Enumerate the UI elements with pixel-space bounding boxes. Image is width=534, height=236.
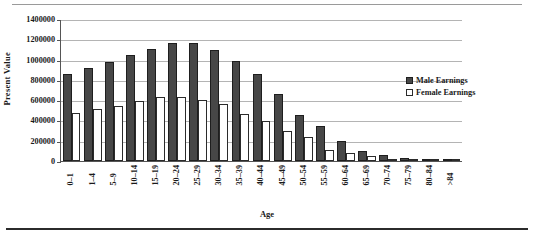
- bar-female: [240, 114, 249, 161]
- bar-male: [232, 61, 241, 161]
- y-tick-label: 800000: [30, 77, 55, 85]
- x-tick-cell: >84: [441, 165, 462, 185]
- x-tick-cell: 35–39: [230, 165, 251, 185]
- legend-swatch-icon: [406, 77, 413, 84]
- legend-swatch-icon: [406, 89, 413, 96]
- x-tick-label: 25–29: [194, 165, 202, 185]
- x-tick-label: 40–44: [257, 165, 265, 185]
- legend-label: Male Earnings: [416, 76, 468, 85]
- x-tick-cell: 5–9: [103, 165, 124, 185]
- bar-female: [156, 97, 165, 161]
- bar-group: [357, 20, 378, 161]
- x-tick-label: 65–69: [363, 165, 371, 185]
- y-tick-label: 1200000: [26, 36, 55, 44]
- bar-female: [388, 159, 397, 161]
- y-tick-label: 1400000: [26, 16, 55, 24]
- bar-female: [135, 101, 144, 161]
- bar-female: [219, 104, 228, 161]
- bar-female: [93, 109, 102, 161]
- bar-group: [209, 20, 230, 161]
- bar-group: [230, 20, 251, 161]
- bar-male: [168, 43, 177, 161]
- bar-female: [409, 159, 418, 161]
- x-tick-label: 75–79: [405, 165, 413, 185]
- bar-group: [167, 20, 188, 161]
- bar-female: [262, 121, 271, 161]
- bar-group: [378, 20, 399, 161]
- top-divider: [12, 4, 522, 5]
- figure-panel: Present Value 14000001200000100000080000…: [0, 0, 534, 236]
- bar-group: [272, 20, 293, 161]
- bar-male: [189, 43, 198, 161]
- x-tick-label: 45–49: [279, 165, 287, 185]
- x-axis-tick-labels: 0–11–45–910–1415–1920–2425–2930–3435–394…: [61, 165, 462, 185]
- chart-legend: Male EarningsFemale Earnings: [406, 76, 475, 100]
- bar-female: [283, 131, 292, 161]
- y-axis-title: Present Value: [2, 52, 18, 106]
- bar-group: [314, 20, 335, 161]
- x-tick-cell: 0–1: [61, 165, 82, 185]
- x-tick-cell: 55–59: [314, 165, 335, 185]
- bar-group: [251, 20, 272, 161]
- y-tick-label: 400000: [30, 117, 55, 125]
- x-tick-label: 80–84: [426, 165, 434, 185]
- x-tick-cell: 30–34: [209, 165, 230, 185]
- bar-female: [367, 156, 376, 161]
- bar-group: [103, 20, 124, 161]
- y-tick-mark: [57, 162, 61, 163]
- bar-male: [337, 141, 346, 161]
- bar-group: [124, 20, 145, 161]
- y-tick-label: 200000: [30, 138, 55, 146]
- bar-group: [145, 20, 166, 161]
- legend-label: Female Earnings: [416, 88, 475, 97]
- bar-female: [198, 100, 207, 161]
- x-tick-label: 50–54: [300, 165, 308, 185]
- x-tick-label: >84: [447, 165, 455, 185]
- bar-male: [379, 155, 388, 161]
- y-tick-label: 1000000: [26, 56, 55, 64]
- x-tick-cell: 1–4: [82, 165, 103, 185]
- x-tick-cell: 10–14: [124, 165, 145, 185]
- x-tick-cell: 20–24: [167, 165, 188, 185]
- x-tick-label: 70–74: [384, 165, 392, 185]
- bar-male: [210, 50, 219, 161]
- x-tick-label: 5–9: [110, 165, 118, 185]
- bar-male: [316, 126, 325, 161]
- x-tick-label: 55–59: [321, 165, 329, 185]
- bar-female: [177, 97, 186, 161]
- bar-male: [443, 159, 452, 161]
- y-tick-label: 0: [51, 158, 55, 166]
- x-tick-cell: 60–64: [335, 165, 356, 185]
- bar-male: [358, 151, 367, 161]
- x-tick-label: 60–64: [342, 165, 350, 185]
- legend-item-female-earnings: Female Earnings: [406, 88, 475, 97]
- bar-group: [61, 20, 82, 161]
- bar-female: [430, 159, 439, 161]
- x-axis-line: [60, 161, 462, 162]
- x-tick-cell: 15–19: [145, 165, 166, 185]
- bar-male: [253, 74, 262, 161]
- x-tick-cell: 75–79: [399, 165, 420, 185]
- plot-area: 1400000120000010000008000006000004000002…: [60, 20, 462, 162]
- bar-female: [452, 159, 461, 161]
- bar-female: [72, 113, 81, 161]
- bar-female: [304, 137, 313, 161]
- bar-male: [63, 74, 72, 161]
- bar-male: [105, 62, 114, 161]
- x-tick-label: 30–34: [215, 165, 223, 185]
- bar-group: [335, 20, 356, 161]
- bar-series-container: [61, 20, 462, 161]
- bar-male: [84, 68, 93, 161]
- bar-male: [274, 94, 283, 161]
- x-tick-cell: 45–49: [272, 165, 293, 185]
- bar-male: [422, 159, 431, 161]
- bar-female: [346, 153, 355, 161]
- x-tick-label: 1–4: [89, 165, 97, 185]
- x-tick-label: 15–19: [152, 165, 160, 185]
- bar-male: [295, 115, 304, 161]
- x-tick-cell: 40–44: [251, 165, 272, 185]
- x-tick-label: 0–1: [67, 165, 75, 185]
- bar-female: [325, 150, 334, 161]
- x-axis-title: Age: [0, 209, 534, 219]
- x-tick-cell: 80–84: [420, 165, 441, 185]
